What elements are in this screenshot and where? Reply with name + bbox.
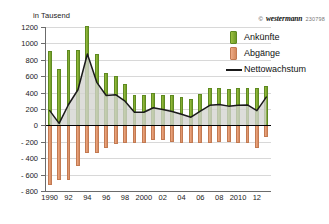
net-growth-area	[50, 54, 267, 125]
figure-code: 230798	[305, 16, 325, 22]
x-tick-label: 04	[177, 193, 185, 202]
x-tick-label: 98	[121, 193, 129, 202]
x-tick-label: 12	[253, 193, 261, 202]
copyright-symbol: ©	[259, 16, 263, 22]
y-axis-unit-label: in Tausend	[33, 11, 70, 20]
net-growth-line	[45, 27, 271, 191]
y-tick-label: 800	[0, 55, 38, 64]
plot-area	[45, 27, 271, 191]
publisher-logo: © westermann 230798	[259, 14, 326, 23]
y-tick-label: 1200	[0, 23, 38, 32]
y-tick-label: 0	[0, 121, 38, 130]
x-tick-label: 92	[64, 193, 72, 202]
y-tick-label: 600	[0, 72, 38, 81]
x-tick-label: 2000	[136, 193, 153, 202]
x-tick-label: 2010	[230, 193, 247, 202]
y-tick-label: - 800	[0, 187, 38, 196]
x-tick-label: 06	[196, 193, 204, 202]
x-tick-label: 96	[102, 193, 110, 202]
x-tick-label: 1990	[41, 193, 58, 202]
y-tick-label: - 400	[0, 154, 38, 163]
y-tick-label: 400	[0, 88, 38, 97]
y-axis	[45, 27, 46, 191]
x-tick-label: 02	[159, 193, 167, 202]
zero-line	[45, 125, 271, 126]
x-axis	[45, 191, 271, 192]
y-tick-label: - 600	[0, 170, 38, 179]
y-tick-label: 1000	[0, 39, 38, 48]
chart-root: in Tausend © westermann 230798 120010008…	[0, 0, 329, 224]
x-tick-label: 94	[83, 193, 91, 202]
y-tick-label: 200	[0, 105, 38, 114]
y-tick-label: - 200	[0, 137, 38, 146]
x-tick-label: 08	[215, 193, 223, 202]
brand-name: westermann	[266, 14, 303, 23]
